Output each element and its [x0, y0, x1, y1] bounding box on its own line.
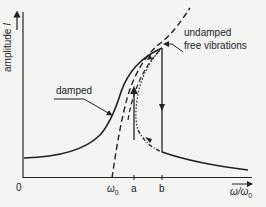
tick-label-b: b	[159, 184, 165, 194]
x-axis-label: ω/ω0	[230, 187, 252, 199]
damped-leader	[84, 99, 110, 114]
jump-down-arrow-icon	[159, 104, 165, 111]
damped-label: damped	[56, 86, 92, 96]
undamped-label-line1: undamped	[184, 28, 231, 38]
lower-branch-arrow-icon	[145, 137, 152, 143]
unstable-branch	[136, 48, 162, 130]
undamped-label-line2: free vibrations	[184, 41, 247, 51]
inner-dashed-branch	[128, 50, 160, 120]
y-axis-label: amplitude I	[2, 23, 13, 72]
undamped-leader	[172, 44, 183, 52]
tick-label-omega0: ω0	[107, 184, 119, 196]
damped-curve-lower	[162, 152, 248, 170]
origin-label: 0	[16, 183, 22, 193]
undamped-backbone	[112, 8, 190, 178]
tick-label-a: a	[131, 184, 137, 194]
